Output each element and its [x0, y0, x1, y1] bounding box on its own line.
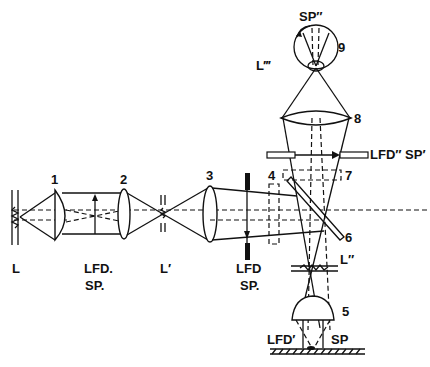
- field-diaphragm-3-icon: [267, 151, 368, 159]
- label-lfd-3: LFD″ SP′: [370, 147, 426, 162]
- label-6: 6: [345, 230, 352, 245]
- label-sp-1: SP.: [85, 278, 104, 293]
- label-specimen: SP: [331, 332, 349, 347]
- objective-icon: [292, 296, 334, 320]
- label-8: 8: [354, 111, 361, 126]
- eyepiece-icon: [281, 111, 351, 125]
- label-9: 9: [338, 40, 345, 55]
- label-lfd-1: LFD.: [84, 261, 113, 276]
- label-5: 5: [342, 304, 349, 319]
- label-lamp-image-2: L″: [340, 252, 354, 267]
- label-2: 2: [120, 172, 127, 187]
- label-lfd-prime: LFD′: [267, 332, 295, 347]
- label-3: 3: [206, 168, 213, 183]
- lamp-icon: [12, 190, 18, 245]
- label-retina: SP″: [299, 9, 323, 24]
- lens-3-icon: [203, 186, 217, 242]
- diagram-stage: 1 2 3 4 6 7 8 9 5 L LFD. SP. L′ LFD SP. …: [0, 0, 430, 367]
- label-lamp-image-1: L′: [160, 261, 171, 276]
- specimen-stage-icon: [270, 349, 365, 354]
- label-lamp: L: [12, 261, 20, 276]
- lens-2-icon: [118, 189, 130, 239]
- label-sp-2: SP.: [240, 278, 259, 293]
- label-lfd-2: LFD: [236, 261, 261, 276]
- label-lamp-image-3: L‴: [256, 58, 271, 73]
- field-diaphragm-2-icon: [244, 173, 250, 260]
- lamp-image-2-icon: [291, 265, 338, 271]
- label-1: 1: [51, 172, 58, 187]
- label-7: 7: [345, 168, 352, 183]
- eye-icon: [294, 25, 338, 71]
- optical-diagram: 1 2 3 4 6 7 8 9 5 L LFD. SP. L′ LFD SP. …: [0, 0, 430, 367]
- lens-1-icon: [55, 190, 65, 240]
- label-4: 4: [268, 168, 276, 183]
